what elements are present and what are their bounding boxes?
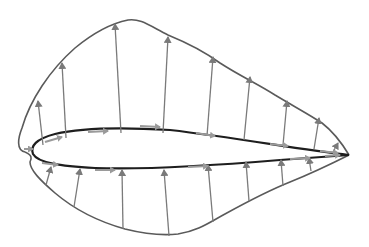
lower-pressure-arrow — [74, 169, 80, 207]
tangential-arrow — [140, 126, 160, 127]
upper-pressure-arrow — [115, 24, 121, 133]
airfoil-pressure-diagram — [0, 0, 369, 247]
upper-pressure-arrow — [283, 101, 287, 145]
upper-pressure-arrow — [314, 118, 319, 149]
upper-pressure-arrow — [163, 37, 168, 133]
airfoil-outline — [32, 128, 349, 168]
tangential-arrow — [88, 131, 108, 132]
upper-pressure-arrow — [62, 63, 66, 138]
lower-pressure-arrow — [309, 158, 311, 171]
lower-surface-pressure-arrows — [46, 158, 311, 236]
lower-pressure-arrow — [46, 167, 51, 185]
tangential-arrow — [188, 166, 208, 167]
lower-pressure-arrow — [208, 165, 213, 222]
upper-pressure-arrow — [333, 143, 338, 152]
lower-pressure-arrow — [122, 170, 123, 229]
lower-pressure-arrow — [281, 160, 283, 186]
lower-pressure-arrow — [164, 170, 169, 236]
upper-pressure-arrow — [244, 77, 250, 140]
diagram-canvas — [0, 0, 369, 247]
tangential-arrow — [290, 158, 310, 159]
lower-pressure-arrow — [246, 162, 249, 201]
upper-pressure-arrow — [207, 57, 213, 136]
tangential-arrow — [325, 155, 340, 156]
